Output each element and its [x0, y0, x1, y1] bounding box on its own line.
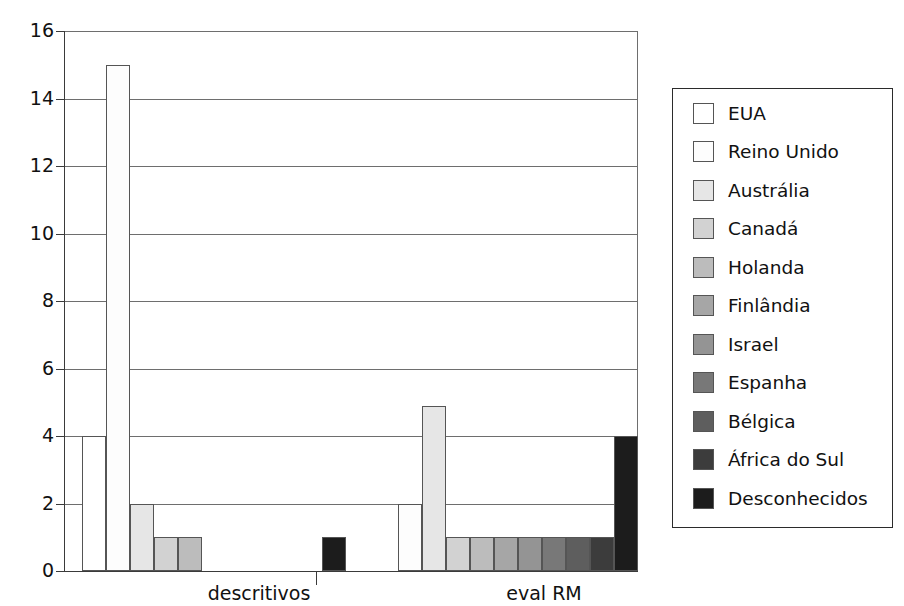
legend-label: Canadá [728, 218, 798, 239]
bar [566, 537, 590, 571]
legend-item[interactable]: Reino Unido [693, 140, 839, 164]
bar [446, 537, 470, 571]
y-tick-label: 10 [30, 224, 54, 243]
legend-box: EUAReino UnidoAustráliaCanadáHolandaFinl… [672, 88, 893, 528]
bar [82, 436, 106, 571]
legend-label: Bélgica [728, 411, 796, 432]
legend-swatch-icon [693, 411, 714, 432]
bar [322, 537, 346, 571]
legend-item[interactable]: Holanda [693, 255, 805, 279]
legend-swatch-icon [693, 218, 714, 239]
y-axis-labels: 1614121086420 [0, 0, 64, 606]
legend-swatch-icon [693, 372, 714, 393]
legend-label: Israel [728, 334, 779, 355]
y-tick-label: 0 [42, 561, 54, 580]
y-tick-label: 2 [42, 494, 54, 513]
legend-item[interactable]: Canadá [693, 217, 798, 241]
bar [614, 436, 638, 571]
legend-item[interactable]: Israel [693, 332, 779, 356]
bar [106, 65, 130, 571]
bar [398, 504, 422, 572]
bar [154, 537, 178, 571]
x-category-label: descritivos [169, 582, 349, 604]
legend-label: Desconhecidos [728, 488, 868, 509]
bar [590, 537, 614, 571]
bar [542, 537, 566, 571]
legend-swatch-icon [693, 103, 714, 124]
legend-item[interactable]: Espanha [693, 371, 807, 395]
bar-series-container [64, 31, 638, 571]
legend-swatch-icon [693, 257, 714, 278]
y-tick-label: 12 [30, 156, 54, 175]
legend-item[interactable]: Bélgica [693, 409, 796, 433]
legend-swatch-icon [693, 141, 714, 162]
legend-item[interactable]: Austrália [693, 178, 810, 202]
legend-label: Espanha [728, 372, 807, 393]
bar [494, 537, 518, 571]
legend-item[interactable]: Finlândia [693, 294, 811, 318]
legend-item[interactable]: EUA [693, 101, 766, 125]
legend-swatch-icon [693, 488, 714, 509]
legend-item[interactable]: Desconhecidos [693, 486, 868, 510]
legend-label: EUA [728, 103, 766, 124]
bar [130, 504, 154, 572]
y-tick-label: 14 [30, 89, 54, 108]
y-tick-label: 4 [42, 426, 54, 445]
y-tick-label: 16 [30, 21, 54, 40]
bar [470, 537, 494, 571]
legend-swatch-icon [693, 180, 714, 201]
legend-label: Austrália [728, 180, 810, 201]
legend-swatch-icon [693, 334, 714, 355]
chart-figure: 1614121086420 descritivoseval RM EUARein… [0, 0, 904, 606]
bar [178, 537, 202, 571]
y-tick-label: 8 [42, 291, 54, 310]
x-category-label: eval RM [454, 582, 634, 604]
legend-label: Finlândia [728, 295, 811, 316]
x-axis-line [64, 571, 638, 572]
legend-label: Reino Unido [728, 141, 839, 162]
legend-item[interactable]: África do Sul [693, 448, 844, 472]
legend-label: Holanda [728, 257, 805, 278]
bar [518, 537, 542, 571]
y-tick-label: 6 [42, 359, 54, 378]
legend-swatch-icon [693, 295, 714, 316]
legend-label: África do Sul [728, 449, 844, 470]
bar [422, 406, 446, 571]
legend-swatch-icon [693, 449, 714, 470]
